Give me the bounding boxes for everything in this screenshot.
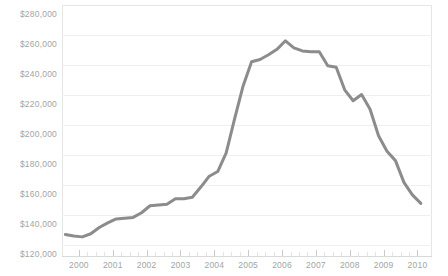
- y-tick-label: $120,000: [0, 249, 57, 259]
- x-axis-minor-tick: [164, 252, 165, 256]
- x-axis-tick: [417, 250, 418, 256]
- x-axis-minor-tick: [231, 252, 232, 256]
- gridline: [62, 155, 432, 156]
- y-tick-label: $140,000: [0, 219, 57, 229]
- x-axis-minor-tick: [367, 252, 368, 256]
- x-axis-minor-tick: [274, 252, 275, 256]
- gridline: [62, 65, 432, 66]
- x-axis-tick: [147, 250, 148, 256]
- gridline: [62, 35, 432, 36]
- x-axis-minor-tick: [333, 252, 334, 256]
- x-axis-minor-tick: [130, 252, 131, 256]
- x-axis-tick: [248, 250, 249, 256]
- gridline: [62, 125, 432, 126]
- x-axis-tick: [350, 250, 351, 256]
- plot-area: [62, 5, 432, 254]
- x-axis-minor-tick: [358, 252, 359, 256]
- x-axis-minor-tick: [240, 252, 241, 256]
- x-axis-minor-tick: [155, 252, 156, 256]
- x-axis-minor-tick: [375, 252, 376, 256]
- x-axis-minor-tick: [87, 252, 88, 256]
- x-axis-line: [62, 256, 432, 257]
- x-axis-minor-tick: [409, 252, 410, 256]
- y-tick-label: $160,000: [0, 189, 57, 199]
- x-axis-minor-tick: [121, 252, 122, 256]
- x-axis-minor-tick: [172, 252, 173, 256]
- x-axis-minor-tick: [307, 252, 308, 256]
- x-axis-minor-tick: [104, 252, 105, 256]
- gridline: [62, 5, 432, 6]
- gridline: [62, 245, 432, 246]
- x-axis-tick: [214, 250, 215, 256]
- y-tick-label: $180,000: [0, 159, 57, 169]
- x-axis-minor-tick: [138, 252, 139, 256]
- x-axis-minor-tick: [291, 252, 292, 256]
- x-axis-minor-tick: [401, 252, 402, 256]
- x-axis-minor-tick: [189, 252, 190, 256]
- x-axis-minor-tick: [206, 252, 207, 256]
- y-tick-label: $240,000: [0, 69, 57, 79]
- x-axis-tick: [282, 250, 283, 256]
- x-axis-tick: [316, 250, 317, 256]
- x-tick-label: 2010: [397, 260, 437, 270]
- x-axis-minor-tick: [96, 252, 97, 256]
- y-tick-label: $280,000: [0, 9, 57, 19]
- line-chart: $280,000 $260,000 $240,000 $220,000 $200…: [0, 0, 448, 276]
- x-axis-minor-tick: [223, 252, 224, 256]
- gridline: [62, 95, 432, 96]
- x-axis-minor-tick: [299, 252, 300, 256]
- x-axis-minor-tick: [197, 252, 198, 256]
- x-axis-minor-tick: [265, 252, 266, 256]
- y-tick-label: $220,000: [0, 99, 57, 109]
- gridline: [62, 215, 432, 216]
- x-axis-tick: [79, 250, 80, 256]
- x-axis-minor-tick: [324, 252, 325, 256]
- gridline: [62, 185, 432, 186]
- x-axis-tick: [180, 250, 181, 256]
- y-tick-label: $260,000: [0, 39, 57, 49]
- x-axis-tick: [113, 250, 114, 256]
- x-axis-minor-tick: [392, 252, 393, 256]
- x-axis-minor-tick: [257, 252, 258, 256]
- x-axis-minor-tick: [341, 252, 342, 256]
- y-tick-label: $200,000: [0, 129, 57, 139]
- x-axis-tick: [384, 250, 385, 256]
